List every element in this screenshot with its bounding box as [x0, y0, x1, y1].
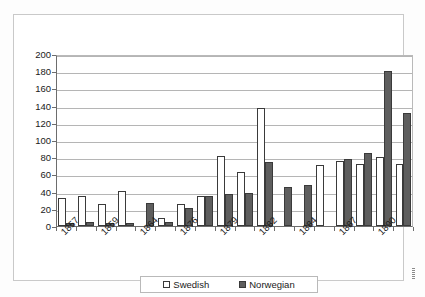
- bar-group: [176, 56, 196, 226]
- page-canvas: 020406080100120140160180200 185718591864…: [0, 0, 425, 297]
- bar-swedish: [336, 161, 344, 226]
- legend-entry-swedish: Swedish: [163, 279, 209, 290]
- bar-swedish: [316, 165, 324, 226]
- bar-swedish: [217, 156, 225, 226]
- bar-group: [295, 56, 315, 226]
- y-axis-tick-label: 200: [21, 50, 51, 59]
- bar-group: [374, 56, 394, 226]
- bar-norwegian: [384, 71, 392, 226]
- dark-square-swatch-icon: [239, 281, 246, 288]
- bar-group: [156, 56, 176, 226]
- y-axis-tick-label: 100: [21, 136, 51, 145]
- legend-entry-norwegian: Norwegian: [239, 279, 294, 290]
- bar-swedish: [356, 164, 364, 226]
- bar-group: [255, 56, 275, 226]
- bar-group: [97, 56, 117, 226]
- y-axis-tick-label: 20: [21, 205, 51, 214]
- bar-swedish: [257, 108, 265, 226]
- bar-norwegian: [86, 222, 94, 226]
- bar-norwegian: [165, 222, 173, 226]
- bar-group: [77, 56, 97, 226]
- bar-group: [216, 56, 236, 226]
- y-axis-tick-label: 0: [21, 222, 51, 231]
- bar-group: [335, 56, 355, 226]
- scan-artifact: [412, 268, 415, 279]
- y-axis-tick-label: 80: [21, 153, 51, 162]
- bar-norwegian: [284, 187, 292, 226]
- y-axis-tick-label: 120: [21, 119, 51, 128]
- bar-series-container: [57, 56, 412, 226]
- bar-norwegian: [126, 223, 134, 226]
- chart-legend: Swedish Norwegian: [140, 276, 318, 293]
- x-axis-labels: 185718591864187618791882188418871890: [56, 230, 413, 270]
- bar-norwegian: [364, 153, 372, 226]
- bar-swedish: [396, 164, 404, 226]
- bar-group: [196, 56, 216, 226]
- y-axis-tick-label: 60: [21, 170, 51, 179]
- bar-norwegian: [245, 193, 253, 226]
- bar-norwegian: [403, 113, 411, 226]
- bar-group: [275, 56, 295, 226]
- chart-frame: 020406080100120140160180200 185718591864…: [13, 14, 404, 281]
- y-axis-tick-label: 180: [21, 67, 51, 76]
- white-square-swatch-icon: [163, 281, 170, 288]
- y-axis-tick-label: 160: [21, 84, 51, 93]
- legend-label-swedish: Swedish: [173, 279, 209, 290]
- bar-group: [117, 56, 137, 226]
- bar-group: [136, 56, 156, 226]
- bar-group: [236, 56, 256, 226]
- x-axis-tick-mark: [413, 227, 414, 231]
- bar-swedish: [237, 172, 245, 226]
- bar-group: [355, 56, 375, 226]
- bar-norwegian: [205, 196, 213, 226]
- y-axis-tick-label: 140: [21, 102, 51, 111]
- bar-group: [315, 56, 335, 226]
- legend-label-norwegian: Norwegian: [249, 279, 294, 290]
- bar-swedish: [376, 157, 384, 226]
- bar-group: [57, 56, 77, 226]
- plot-area: [56, 55, 413, 227]
- y-axis-tick-label: 40: [21, 188, 51, 197]
- bar-group: [394, 56, 414, 226]
